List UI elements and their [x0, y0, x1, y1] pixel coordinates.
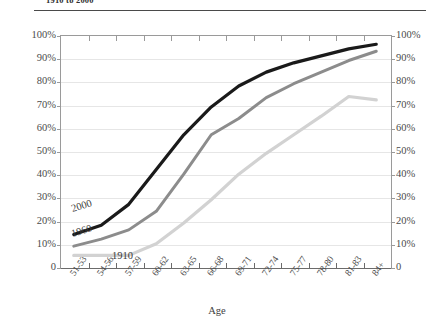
x-axis-tick-bottom: [281, 263, 282, 268]
y-axis-tick-right: [391, 198, 395, 199]
x-axis-tick-top: [144, 36, 145, 41]
gridline: [61, 245, 391, 246]
y-axis-label-left: 80%: [37, 76, 56, 87]
x-axis-tick-bottom: [171, 263, 172, 268]
x-axis-tick-top: [116, 36, 117, 41]
y-axis-label-right: 100%: [396, 30, 421, 41]
x-axis-tick-top: [254, 36, 255, 41]
y-axis-tick-left: [57, 245, 61, 246]
y-axis-tick-left: [57, 175, 61, 176]
x-axis-tick-bottom: [199, 263, 200, 268]
plot-area: [60, 35, 392, 269]
series-label-1910: 1910: [112, 250, 133, 261]
y-axis-tick-right: [391, 245, 395, 246]
y-axis-tick-right: [391, 106, 395, 107]
x-axis-tick-top: [309, 36, 310, 41]
y-axis-label-left: 60%: [37, 123, 56, 134]
y-axis-label-right: 20%: [396, 216, 415, 227]
y-axis-tick-right: [391, 82, 395, 83]
x-axis-tick-top: [336, 36, 337, 41]
y-axis-tick-left: [57, 198, 61, 199]
y-axis-tick-right: [391, 222, 395, 223]
chart-header: 1910 to 2000: [0, 0, 434, 16]
y-axis-tick-left: [57, 222, 61, 223]
x-axis-tick-bottom: [336, 263, 337, 268]
y-axis-label-right: 70%: [396, 100, 415, 111]
x-axis-tick-bottom: [226, 263, 227, 268]
y-axis-label-right: 10%: [396, 239, 415, 250]
y-axis-tick-left: [57, 152, 61, 153]
y-axis-tick-left: [57, 59, 61, 60]
y-axis-label-left: 30%: [37, 192, 56, 203]
x-axis-tick-bottom: [254, 263, 255, 268]
gridline: [61, 175, 391, 176]
gridline: [61, 106, 391, 107]
x-axis-tick-top: [89, 36, 90, 41]
y-axis-label-left: 70%: [37, 100, 56, 111]
y-axis-label-left: 40%: [37, 169, 56, 180]
y-axis-tick-left: [57, 36, 61, 37]
x-axis-tick-bottom: [364, 263, 365, 268]
x-axis-tick-top: [171, 36, 172, 41]
y-axis-tick-right: [391, 59, 395, 60]
x-axis-title: Age: [0, 305, 434, 316]
y-axis-label-left: 20%: [37, 216, 56, 227]
y-axis-label-right: 0: [396, 262, 401, 273]
x-axis-tick-top: [226, 36, 227, 41]
y-axis-tick-right: [391, 36, 395, 37]
x-axis-tick-bottom: [89, 263, 90, 268]
x-axis-tick-top: [199, 36, 200, 41]
gridline: [61, 152, 391, 153]
chart-title: 1910 to 2000: [46, 0, 94, 5]
y-axis-label-right: 30%: [396, 192, 415, 203]
y-axis-tick-left: [57, 106, 61, 107]
header-rule: [34, 10, 426, 11]
y-axis-label-right: 80%: [396, 76, 415, 87]
x-axis-tick-top: [281, 36, 282, 41]
y-axis-label-left: 100%: [32, 30, 57, 41]
gridline: [61, 222, 391, 223]
y-axis-tick-left: [57, 268, 61, 269]
y-axis-tick-right: [391, 175, 395, 176]
y-axis-label-right: 50%: [396, 146, 415, 157]
gridline: [61, 198, 391, 199]
y-axis-tick-right: [391, 129, 395, 130]
x-axis-tick-top: [364, 36, 365, 41]
y-axis-label-left: 10%: [37, 239, 56, 250]
x-axis-tick-bottom: [309, 263, 310, 268]
y-axis-label-left: 0: [51, 262, 56, 273]
y-axis-tick-right: [391, 268, 395, 269]
y-axis-tick-left: [57, 129, 61, 130]
y-axis-label-right: 60%: [396, 123, 415, 134]
y-axis-tick-left: [57, 82, 61, 83]
y-axis-label-right: 90%: [396, 53, 415, 64]
y-axis-label-left: 50%: [37, 146, 56, 157]
gridline: [61, 129, 391, 130]
y-axis-label-left: 90%: [37, 53, 56, 64]
gridline: [61, 82, 391, 83]
y-axis-label-right: 40%: [396, 169, 415, 180]
x-axis-tick-bottom: [144, 263, 145, 268]
gridline: [61, 59, 391, 60]
x-axis-tick-bottom: [116, 263, 117, 268]
y-axis-tick-right: [391, 152, 395, 153]
